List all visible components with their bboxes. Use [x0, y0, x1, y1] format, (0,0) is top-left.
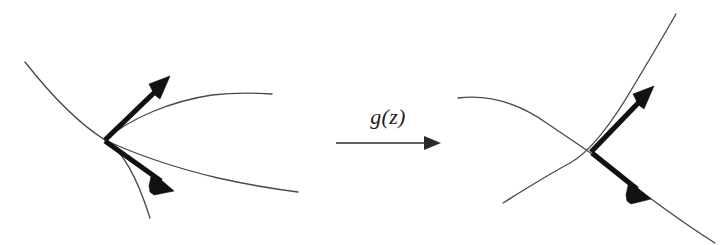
map-label: g(z): [370, 104, 405, 129]
conformal-map-figure: g(z): [0, 0, 726, 245]
figure-canvas: g(z): [0, 0, 726, 245]
